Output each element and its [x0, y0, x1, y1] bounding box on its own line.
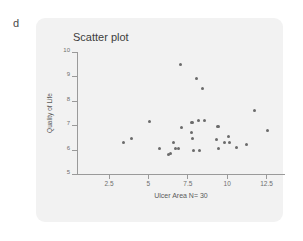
x-axis-tick-label: 2.5: [104, 180, 113, 187]
panel-label: d: [13, 18, 19, 29]
figure-card: Scatter plot 5678910 2.557.51012.5 Quali…: [36, 18, 283, 222]
scatter-point: [228, 141, 231, 144]
y-axis-tick-label: 7: [67, 120, 70, 126]
scatter-point: [180, 126, 183, 129]
x-axis-tick: 2.5: [109, 175, 110, 179]
scatter-point: [158, 147, 161, 150]
scatter-point: [179, 63, 182, 66]
x-axis-tick: 7.5: [187, 175, 188, 179]
scatter-point: [191, 137, 194, 140]
x-axis-title: Ulcer Area N= 30: [77, 192, 285, 199]
scatter-point: [203, 119, 206, 122]
scatter-point: [148, 120, 151, 123]
y-axis-tick-label: 10: [63, 47, 70, 53]
scatter-point: [197, 119, 200, 122]
scatter-point: [235, 146, 238, 149]
scatter-point: [198, 149, 201, 152]
scatter-point: [195, 77, 198, 80]
x-axis-tick: 10: [227, 175, 228, 179]
scatter-point: [216, 125, 219, 128]
y-axis-tick-label: 8: [67, 96, 70, 102]
scatter-point: [223, 141, 226, 144]
scatter-point: [130, 137, 133, 140]
scatter-point: [169, 152, 172, 155]
scatter-point: [266, 129, 269, 132]
scatter-point: [217, 147, 220, 150]
scatter-point: [215, 138, 218, 141]
scatter-point: [177, 147, 180, 150]
scatter-point: [190, 131, 193, 134]
scatter-point: [201, 87, 204, 90]
y-axis-tick-label: 6: [67, 145, 70, 151]
scatter-point: [253, 109, 256, 112]
scatter-point: [190, 121, 193, 124]
x-axis-tick-label: 12.5: [260, 180, 273, 187]
scatter-point: [122, 141, 125, 144]
scatter-point: [192, 149, 195, 152]
chart-title: Scatter plot: [73, 31, 129, 43]
scatter-point: [245, 143, 248, 146]
scatter-point: [172, 141, 175, 144]
x-axis-tick: 5: [148, 175, 149, 179]
x-axis-tick: 12.5: [266, 175, 267, 179]
y-axis-title: Quality of Life: [46, 93, 53, 133]
y-axis-tick-label: 9: [67, 71, 70, 77]
y-axis-tick: 5: [72, 174, 77, 175]
y-axis-tick-label: 5: [67, 169, 70, 175]
scatter-point: [227, 135, 230, 138]
x-axis-tick-label: 10: [224, 180, 231, 187]
x-axis-tick-label: 7.5: [183, 180, 192, 187]
plot-area: [77, 52, 285, 174]
x-axis-tick-label: 5: [147, 180, 151, 187]
